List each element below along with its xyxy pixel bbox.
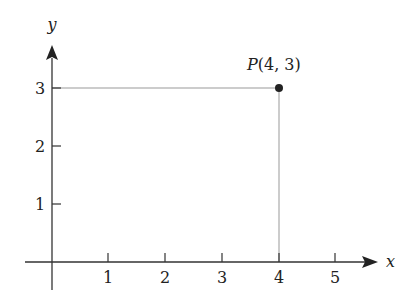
y-tick-label: 3 [35,79,45,98]
point-coords: (4, 3) [258,55,301,74]
x-tick-label: 1 [103,268,113,287]
x-tick-label: 5 [330,268,340,287]
point-name: P [246,55,258,74]
y-tick-label: 2 [35,137,45,156]
y-tick-label: 1 [35,195,45,214]
y-axis-label: y [46,15,57,34]
point-p [275,84,283,92]
x-tick-label: 2 [160,268,170,287]
coordinate-plot: 1 2 3 4 5 1 2 3 x y P(4, 3) [0,0,415,304]
point-label: P(4, 3) [246,55,301,74]
y-axis-arrow-icon [46,45,58,60]
x-tick-label: 3 [217,268,227,287]
x-axis-label: x [386,252,395,271]
x-ticks [108,253,335,262]
x-tick-label: 4 [274,268,284,287]
y-ticks [52,88,61,204]
